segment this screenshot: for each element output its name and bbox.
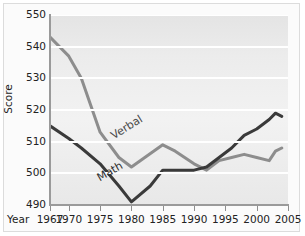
x-tick-mark xyxy=(50,206,51,211)
x-tick-label: 1995 xyxy=(208,213,242,225)
x-tick-label: 2005 xyxy=(271,213,305,225)
x-axis-line xyxy=(49,204,289,206)
gridline xyxy=(50,172,288,174)
chart-figure: 490500510520530540550 196719701975198019… xyxy=(0,0,305,236)
gridline xyxy=(50,141,288,143)
x-tick-mark xyxy=(131,206,132,211)
y-tick-label: 500 xyxy=(18,167,46,178)
y-tick-label: 550 xyxy=(18,9,46,20)
x-tick-label: 1980 xyxy=(114,213,148,225)
gridline xyxy=(50,77,288,79)
y-tick-label: 490 xyxy=(18,199,46,210)
y-tick-label: 510 xyxy=(18,136,46,147)
x-tick-label: 1985 xyxy=(146,213,180,225)
y-tick-label: 540 xyxy=(18,41,46,52)
x-tick-label: 2000 xyxy=(240,213,274,225)
x-tick-mark xyxy=(194,206,195,211)
y-axis-title: Score xyxy=(2,77,14,121)
x-tick-mark xyxy=(288,206,289,211)
y-axis-tick-labels: 490500510520530540550 xyxy=(16,0,46,236)
series-line-math xyxy=(50,113,282,202)
x-tick-mark xyxy=(225,206,226,211)
x-tick-label: 1970 xyxy=(52,213,86,225)
plot-area xyxy=(50,15,288,205)
x-tick-mark xyxy=(163,206,164,211)
x-tick-mark xyxy=(100,206,101,211)
x-axis-title: Year xyxy=(7,213,29,225)
x-tick-label: 1990 xyxy=(177,213,211,225)
y-tick-label: 520 xyxy=(18,104,46,115)
y-tick-label: 530 xyxy=(18,72,46,83)
gridline xyxy=(50,46,288,48)
x-tick-label: 1975 xyxy=(83,213,117,225)
x-tick-mark xyxy=(257,206,258,211)
gridline xyxy=(50,109,288,111)
x-tick-mark xyxy=(69,206,70,211)
gridline xyxy=(50,15,288,16)
y-axis-line xyxy=(49,14,51,206)
